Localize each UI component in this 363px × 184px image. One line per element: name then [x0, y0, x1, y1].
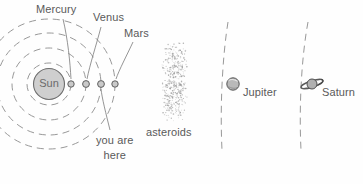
- sun-label: Sun: [34, 77, 64, 89]
- mercury-body: [68, 81, 74, 87]
- mars-body: [112, 81, 118, 87]
- earth-body: [98, 81, 105, 88]
- mars-leader-line: [116, 42, 133, 79]
- mercury-label: Mercury: [36, 3, 76, 15]
- here-leader-line: [101, 89, 110, 130]
- mercury-leader-line: [63, 19, 71, 79]
- venus-leader-line: [87, 27, 101, 79]
- saturn-body: [300, 77, 324, 90]
- here-line: here: [103, 149, 125, 161]
- jupiter-body: [227, 78, 239, 90]
- you-are-line: you are: [96, 134, 133, 146]
- asteroid-belt: [162, 42, 188, 121]
- venus-label: Venus: [93, 11, 124, 23]
- mars-label: Mars: [124, 27, 149, 39]
- jupiter-label: Jupiter: [243, 86, 277, 98]
- you-are-here-label: you are here: [96, 133, 133, 163]
- venus-body: [83, 81, 90, 88]
- leader-line-group: [63, 19, 133, 130]
- asteroids-label: asteroids: [146, 126, 192, 138]
- inner-planet-group: [68, 81, 118, 88]
- solar-system-diagram: [0, 0, 363, 184]
- saturn-label: Saturn: [322, 86, 355, 98]
